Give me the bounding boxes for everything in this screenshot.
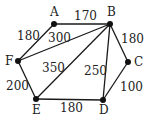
edge-ED	[36, 99, 103, 100]
node-E	[33, 96, 39, 102]
node-label-E: E	[32, 103, 41, 117]
edge-weight-AB: 170	[74, 9, 97, 23]
edge-weight-ED: 180	[60, 101, 83, 115]
node-label-B: B	[107, 5, 116, 19]
node-label-A: A	[49, 5, 59, 19]
edge-weight-BD: 250	[84, 64, 107, 78]
node-label-F: F	[5, 54, 13, 68]
node-A	[51, 21, 57, 27]
node-C	[125, 59, 131, 65]
node-B	[107, 21, 113, 27]
edge-weight-FE: 200	[6, 79, 29, 93]
node-label-D: D	[99, 103, 109, 117]
edge-weight-CD: 100	[120, 80, 143, 94]
edge-weight-BC: 180	[121, 32, 144, 46]
node-label-C: C	[134, 55, 143, 69]
edge-weight-AF: 180	[17, 29, 40, 43]
edge-weight-FB: 300	[48, 31, 71, 45]
edge-BD	[103, 24, 110, 100]
weighted-graph-diagram: 170180300180350250200100180 ABCDEF	[0, 0, 149, 122]
edge-weight-BE: 350	[42, 61, 65, 75]
node-F	[15, 58, 21, 64]
